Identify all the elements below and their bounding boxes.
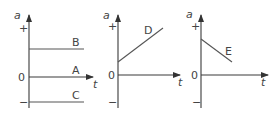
zero-label: 0: [18, 71, 25, 84]
acceleration-time-graphs: a + 0 − t B A C a + 0 − t D a + 0 − t E: [0, 0, 276, 113]
graph-1: a + 0 − t B A C: [14, 9, 98, 109]
minus-label: −: [192, 96, 201, 109]
plus-label: +: [191, 20, 200, 33]
line-d-label: D: [144, 24, 152, 37]
minus-label: −: [108, 96, 117, 109]
line-b-label: B: [72, 36, 80, 49]
graph-2: a + 0 − t D: [103, 9, 183, 109]
line-e-label: E: [225, 45, 232, 58]
zero-label: 0: [108, 69, 115, 82]
x-axis-label: t: [93, 78, 98, 91]
graph-3: a + 0 − t E: [186, 8, 268, 109]
zero-label: 0: [191, 69, 198, 82]
plus-label: +: [108, 20, 117, 33]
y-axis-label: a: [14, 9, 21, 22]
line-a-label: A: [72, 64, 80, 77]
minus-label: −: [19, 96, 28, 109]
line-c-label: C: [72, 89, 80, 102]
x-axis-label: t: [261, 76, 266, 89]
plus-label: +: [19, 22, 28, 35]
x-axis-label: t: [178, 76, 183, 89]
line-d: [118, 28, 163, 62]
